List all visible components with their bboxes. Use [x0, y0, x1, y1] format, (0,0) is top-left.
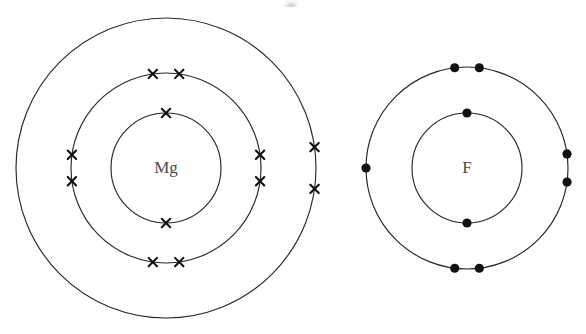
atom-fluorine: F	[361, 63, 571, 273]
fluorine-inner-shell-electron-1	[462, 108, 471, 117]
atoms-vector-layer: MgF	[0, 0, 586, 334]
atom-magnesium: Mg	[16, 18, 319, 318]
fluorine-outer-shell-electron-1	[450, 63, 459, 72]
fluorine-outer-shell-electron-2	[475, 63, 484, 72]
fluorine-inner-shell-electron-2	[462, 218, 471, 227]
fluorine-outer-shell-electron-3	[475, 264, 484, 273]
fluorine-outer-shell-electron-5	[562, 149, 571, 158]
fluorine-outer-shell-electron-7	[361, 163, 370, 172]
magnesium-nucleus-label: Mg	[154, 158, 178, 177]
fluorine-nucleus-label: F	[462, 158, 471, 177]
atoms-group: MgF	[16, 18, 572, 318]
fluorine-outer-shell-electron-6	[562, 177, 571, 186]
electron-shell-diagram: MgF	[0, 0, 586, 334]
fluorine-outer-shell-electron-4	[450, 264, 459, 273]
